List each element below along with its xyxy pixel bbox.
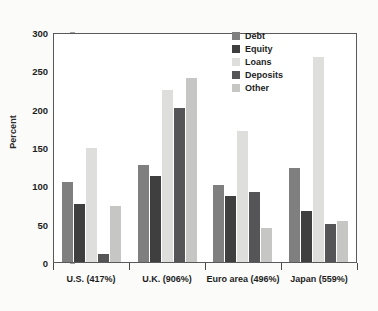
legend-item-label: Deposits	[245, 70, 283, 80]
y-axis-title-text: Percent	[8, 115, 18, 149]
chart-legend: DebtEquityLoansDepositsOther	[232, 30, 283, 93]
legend-swatch-icon	[232, 45, 240, 53]
x-axis-tick-mark	[53, 263, 54, 270]
y-axis-tick-labels: 050100150200250300	[20, 33, 48, 263]
bar	[74, 204, 85, 262]
legend-item-label: Debt	[245, 31, 265, 41]
x-axis-category-labels: U.S. (417%)U.K. (906%)Euro area (496%)Ja…	[53, 274, 357, 284]
bar-group	[281, 34, 357, 262]
bar-group	[54, 34, 130, 262]
bar	[301, 211, 312, 262]
legend-swatch-icon	[232, 71, 240, 79]
y-axis-tick-label: 100	[32, 181, 48, 192]
y-axis-tick-label: 50	[37, 219, 48, 230]
y-axis-tick-label: 300	[32, 28, 48, 39]
x-axis-tick-mark	[205, 263, 206, 270]
bar	[186, 78, 197, 262]
y-axis-tick-label: 0	[43, 258, 48, 269]
bar	[213, 185, 224, 262]
bar	[62, 182, 73, 263]
bar	[86, 148, 97, 262]
legend-item-label: Loans	[245, 57, 272, 67]
bar	[225, 196, 236, 262]
bar	[150, 176, 161, 262]
legend-swatch-icon	[232, 58, 240, 66]
x-axis-category-label: Japan (559%)	[281, 274, 357, 284]
bar-chart-figure: Percent 050100150200250300 U.S. (417%)U.…	[0, 0, 378, 311]
x-axis-category-label: U.K. (906%)	[129, 274, 205, 284]
bar	[237, 131, 248, 262]
x-axis-category-label: U.S. (417%)	[53, 274, 129, 284]
legend-item: Deposits	[232, 69, 283, 80]
bar	[110, 206, 121, 262]
bar	[313, 57, 324, 262]
legend-item: Loans	[232, 56, 283, 67]
bar	[138, 165, 149, 262]
bar	[98, 254, 109, 262]
legend-item: Other	[232, 82, 283, 93]
bar	[261, 228, 272, 263]
legend-item: Equity	[232, 43, 283, 54]
plot-area	[53, 33, 357, 263]
bar	[249, 192, 260, 262]
bar-groups	[54, 34, 356, 262]
bar	[174, 108, 185, 262]
x-axis-tick-mark	[129, 263, 130, 270]
bar	[289, 168, 300, 262]
x-axis-tick-mark	[357, 263, 358, 270]
bar	[337, 221, 348, 262]
legend-item-label: Equity	[245, 44, 273, 54]
legend-item: Debt	[232, 30, 283, 41]
y-axis-tick-label: 150	[32, 143, 48, 154]
x-axis-category-label: Euro area (496%)	[205, 274, 281, 284]
y-axis-tick-label: 200	[32, 104, 48, 115]
bar	[162, 90, 173, 263]
x-axis-tick-marks	[53, 263, 357, 271]
legend-swatch-icon	[232, 84, 240, 92]
y-axis-tick-label: 250	[32, 66, 48, 77]
legend-item-label: Other	[245, 83, 269, 93]
x-axis-tick-mark	[281, 263, 282, 270]
legend-swatch-icon	[232, 32, 240, 40]
bar-group	[130, 34, 206, 262]
bar	[325, 224, 336, 262]
